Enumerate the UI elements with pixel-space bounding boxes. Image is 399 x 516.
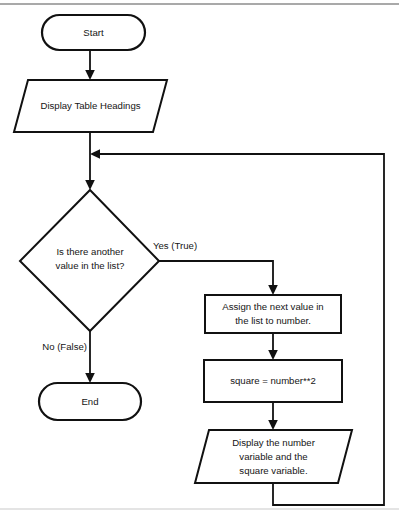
node-end[interactable]: End: [39, 383, 141, 420]
node-assign[interactable]: Assign the next value in the list to num…: [205, 295, 341, 333]
arrowhead-icon: [268, 285, 278, 295]
arrowhead-icon: [268, 420, 278, 430]
node-square[interactable]: square = number**2: [204, 360, 342, 402]
edge-label-yes-true: Yes (True): [153, 240, 197, 251]
node-assign-label-line1: Assign the next value in: [222, 301, 323, 312]
node-square-label: square = number**2: [230, 375, 316, 386]
edge-headings-to-decision: [85, 132, 95, 190]
edge-label-no-false: No (False): [42, 341, 87, 352]
node-display-values-label-line3: square variable.: [239, 465, 307, 476]
node-display-values-label-line2: variable and the: [239, 451, 307, 462]
node-start[interactable]: Start: [42, 15, 145, 50]
node-display-headings[interactable]: Display Table Headings: [14, 80, 167, 132]
node-display-values-label-line1: Display the number: [232, 437, 315, 448]
edge-decision-yes: [159, 261, 278, 295]
arrowhead-icon: [85, 180, 95, 190]
arrowhead-icon: [85, 70, 95, 80]
node-start-label: Start: [83, 27, 104, 38]
arrowhead-icon: [90, 149, 100, 159]
flowchart-page: Start Display Table Headings Is there an…: [0, 0, 399, 516]
edge-assign-to-square: [268, 333, 278, 360]
node-display-headings-label: Display Table Headings: [40, 100, 140, 111]
node-end-label: End: [81, 396, 98, 407]
edge-start-to-headings: [85, 50, 95, 80]
node-display-values[interactable]: Display the number variable and the squa…: [195, 430, 352, 483]
node-assign-label-line2: the list to number.: [235, 315, 311, 326]
node-decision-label-line2: value in the list?: [56, 260, 125, 271]
flowchart-canvas: Start Display Table Headings Is there an…: [0, 0, 399, 516]
node-decision-label-line1: Is there another: [56, 246, 124, 257]
arrowhead-icon: [85, 373, 95, 383]
edge-decision-no: [85, 331, 95, 383]
arrowhead-icon: [268, 350, 278, 360]
edge-square-to-display: [268, 402, 278, 430]
node-decision[interactable]: Is there another value in the list?: [20, 190, 159, 331]
